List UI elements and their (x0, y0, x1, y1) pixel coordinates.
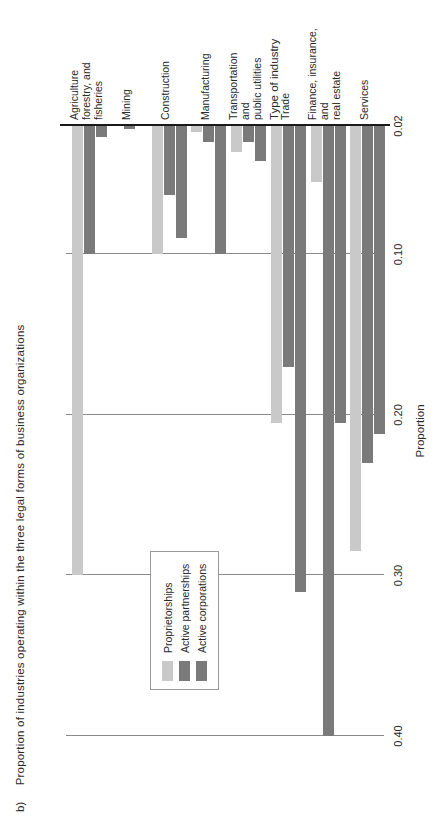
category-label: Trade (279, 12, 291, 120)
bar (152, 126, 163, 254)
bar-chart-figure: b)Proportion of industries operating wit… (0, 0, 446, 832)
bar (323, 126, 334, 736)
bar (350, 126, 361, 551)
bar (231, 126, 242, 152)
category-label-line: Services (358, 12, 370, 120)
category-labels: Agricultureforestry, andfisheriesMiningC… (66, 12, 384, 120)
category-label: Mining (120, 12, 132, 120)
category-label-line: Mining (120, 12, 132, 120)
legend-item: Active partnerships (176, 564, 193, 681)
bar (283, 126, 294, 367)
proportion-axis-title: Proportion (414, 126, 426, 736)
legend-swatch (162, 661, 173, 681)
category-label: Manufacturing (199, 12, 211, 120)
legend-item: Proprietorships (159, 564, 176, 681)
legend-label: Active corporations (196, 564, 208, 653)
legend-label: Active partnerships (179, 564, 191, 653)
bar-group (344, 126, 384, 736)
category-label: Transportationandpublic utilities (227, 12, 263, 120)
category-label-line: fisheries (92, 12, 104, 120)
bar (191, 126, 202, 132)
tick-label: 0.20 (392, 404, 404, 425)
category-label-line: Trade (279, 12, 291, 120)
tick-label: 0.02 (392, 115, 404, 136)
category-label-line: real estate (330, 12, 342, 120)
category-label-line: forestry, and (80, 12, 92, 120)
bar (124, 126, 135, 129)
bar (271, 126, 282, 423)
axis-tick-labels: 0.400.300.200.100.02 (392, 126, 410, 736)
category-label-line: Transportation (227, 12, 239, 120)
category-label: Agricultureforestry, andfisheries (68, 12, 104, 120)
legend-swatch (196, 661, 207, 681)
legend-label: Proprietorships (162, 582, 174, 653)
category-label-line: Manufacturing (199, 12, 211, 120)
legend-swatch (179, 661, 190, 681)
industry-axis-title: Type of industry (268, 0, 280, 120)
category-label-line: Construction (159, 12, 171, 120)
legend-item: Active corporations (193, 564, 210, 681)
bar-group (106, 126, 146, 736)
bar-group (225, 126, 265, 736)
tick-label: 0.30 (392, 565, 404, 586)
bar (243, 126, 254, 142)
bar (164, 126, 175, 195)
category-label: Finance, insurance,andreal estate (306, 12, 342, 120)
category-label-line: public utilities (251, 12, 263, 120)
bar-group (305, 126, 345, 736)
tick-label: 0.40 (392, 725, 404, 746)
plot-area (66, 126, 384, 736)
bar (311, 126, 322, 182)
tick-label: 0.10 (392, 244, 404, 265)
category-label-line: Finance, insurance, (306, 12, 318, 120)
chart-legend: ProprietorshipsActive partnershipsActive… (150, 551, 219, 690)
figure-title-text: Proportion of industries operating withi… (14, 325, 26, 786)
bar-group (265, 126, 305, 736)
panel-letter: b) (14, 801, 26, 812)
bar-group (66, 126, 106, 736)
figure-title: b)Proportion of industries operating wit… (14, 325, 26, 812)
category-label: Construction (159, 12, 171, 120)
bar (72, 126, 83, 575)
bar (374, 126, 385, 434)
bar (203, 126, 214, 142)
category-label-line: Agriculture (68, 12, 80, 120)
category-label-line: and (239, 12, 251, 120)
category-label-line: and (318, 12, 330, 120)
bar (84, 126, 95, 254)
category-label: Services (358, 12, 370, 120)
figure-rotator: b)Proportion of industries operating wit… (0, 0, 446, 832)
bar (362, 126, 373, 463)
